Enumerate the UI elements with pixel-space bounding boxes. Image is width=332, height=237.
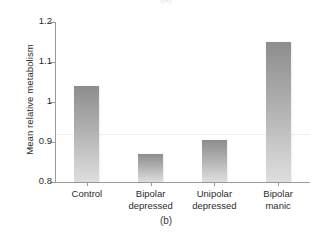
x-tick-mark bbox=[214, 182, 215, 186]
y-axis-title: Mean relative metabolism bbox=[24, 15, 35, 185]
y-tick-label: 1 bbox=[47, 95, 52, 106]
x-tick-mark bbox=[278, 182, 279, 186]
x-category-label: Bipolar manic bbox=[246, 188, 310, 211]
x-category-label: Unipolar depressed bbox=[183, 188, 247, 211]
y-axis-line bbox=[55, 22, 56, 182]
y-tick-label: 0.8 bbox=[39, 175, 52, 186]
figure-caption-b: (b) bbox=[0, 215, 332, 226]
x-category-label: Bipolar depressed bbox=[119, 188, 183, 211]
bar-chart-figure: Mean relative metabolism 0.80.911.11.2 C… bbox=[0, 0, 332, 237]
y-tick-label: 1.1 bbox=[39, 55, 52, 66]
x-tick-mark bbox=[151, 182, 152, 186]
y-tick-label: 0.9 bbox=[39, 135, 52, 146]
x-category-label: Control bbox=[55, 188, 119, 200]
bar bbox=[74, 86, 99, 182]
bar bbox=[202, 140, 227, 182]
x-tick-mark bbox=[87, 182, 88, 186]
bar bbox=[138, 154, 163, 182]
bar bbox=[266, 42, 291, 182]
plot-area: 0.80.911.11.2 ControlBipolar depressedUn… bbox=[55, 22, 310, 182]
x-axis-line bbox=[55, 182, 310, 183]
y-tick-label: 1.2 bbox=[39, 15, 52, 26]
